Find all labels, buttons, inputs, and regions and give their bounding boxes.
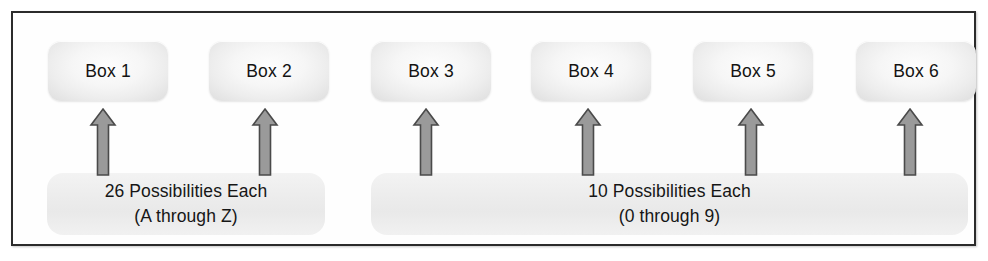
arrow-to-box-6 [896, 107, 924, 177]
letters-band-caption: 26 Possibilities Each (A through Z) [47, 179, 325, 229]
arrow-to-box-2 [251, 107, 279, 177]
diagram-frame: 26 Possibilities Each (A through Z) 10 P… [11, 11, 976, 246]
box-3: Box 3 [371, 41, 491, 101]
box-6: Box 6 [856, 41, 976, 101]
digits-band-line2: (0 through 9) [371, 204, 968, 229]
arrow-to-box-5 [737, 107, 765, 177]
box-1: Box 1 [48, 41, 168, 101]
box-6-label: Box 6 [893, 61, 939, 82]
box-4-label: Box 4 [568, 61, 614, 82]
box-2: Box 2 [209, 41, 329, 101]
box-5-label: Box 5 [730, 61, 776, 82]
letters-band-line1: 26 Possibilities Each [105, 181, 268, 201]
box-2-label: Box 2 [246, 61, 292, 82]
digits-band-caption: 10 Possibilities Each (0 through 9) [371, 179, 968, 229]
arrow-to-box-4 [574, 107, 602, 177]
arrow-to-box-3 [412, 107, 440, 177]
diagram-root: 26 Possibilities Each (A through Z) 10 P… [0, 0, 988, 261]
letters-band-line2: (A through Z) [47, 204, 325, 229]
digits-band-line1: 10 Possibilities Each [588, 181, 751, 201]
box-3-label: Box 3 [408, 61, 454, 82]
arrow-to-box-1 [89, 107, 117, 177]
box-1-label: Box 1 [85, 61, 131, 82]
box-5: Box 5 [693, 41, 813, 101]
box-4: Box 4 [531, 41, 651, 101]
